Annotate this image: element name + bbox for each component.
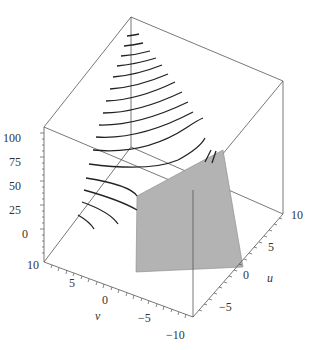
z-tick-label: 0 bbox=[22, 227, 28, 242]
z-tick-label: 100 bbox=[3, 131, 21, 146]
z-tick-label: 50 bbox=[9, 179, 21, 194]
u-tick-label: 10 bbox=[291, 208, 303, 223]
v-tick-label: −10 bbox=[166, 328, 185, 343]
v-axis-ticks bbox=[51, 265, 186, 318]
v-tick-label: 10 bbox=[27, 258, 39, 273]
v-tick-label: 5 bbox=[69, 276, 75, 291]
gray-plane-surface bbox=[136, 150, 243, 317]
v-tick-label: −5 bbox=[138, 311, 151, 326]
v-axis-title: v bbox=[95, 309, 100, 324]
u-tick-label: 5 bbox=[268, 240, 274, 255]
z-tick-label: 25 bbox=[9, 203, 21, 218]
z-axis-ticks bbox=[40, 133, 44, 253]
z-tick-label: 75 bbox=[9, 155, 21, 170]
u-tick-label: 0 bbox=[243, 268, 249, 283]
3d-plot bbox=[0, 0, 319, 350]
u-tick-label: −5 bbox=[219, 300, 232, 315]
u-axis-title: u bbox=[267, 271, 273, 286]
v-tick-label: 0 bbox=[102, 293, 108, 308]
